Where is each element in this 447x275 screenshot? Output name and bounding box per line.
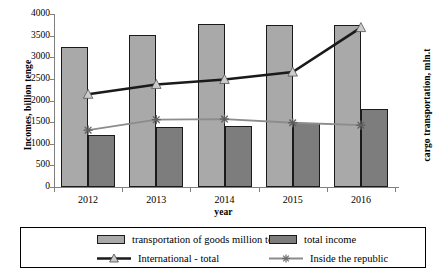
x-axis-tick-mark <box>395 187 396 192</box>
x-axis-line <box>54 187 399 188</box>
line-series-group <box>54 14 395 187</box>
marker-star-icon <box>84 126 93 135</box>
x-axis-title: year <box>0 207 447 217</box>
legend-swatch-light-icon <box>97 235 125 244</box>
legend-item-transportation-of-goods[interactable]: transportation of goods million tons <box>97 230 283 248</box>
legend-swatch-dark-icon <box>269 235 297 244</box>
x-axis-tick-mark <box>327 187 328 192</box>
x-axis-tick-mark <box>259 187 260 192</box>
legend-label-inside-the-republic: Inside the republic <box>310 253 388 264</box>
legend-line-triangle-icon <box>97 253 131 264</box>
marker-star-icon <box>152 115 161 124</box>
legend-item-inside-the-republic[interactable]: Inside the republic <box>269 249 388 267</box>
x-axis-tick-mark <box>54 187 55 192</box>
y-axis-tick-marks <box>0 14 60 188</box>
y-axis-right-title: cargo transportation, mln.t <box>422 25 432 185</box>
legend-label-transportation-of-goods: transportation of goods million tons <box>132 234 283 245</box>
legend-label-international-total: International - total <box>138 253 219 264</box>
x-axis-tick-label: 2014 <box>195 194 255 205</box>
x-axis-tick-label: 2013 <box>126 194 186 205</box>
legend-row-2: International - total Inside the republi… <box>21 249 427 267</box>
marker-triangle-icon <box>356 23 366 32</box>
x-axis-tick-label: 2016 <box>331 194 391 205</box>
marker-star-icon <box>356 121 365 130</box>
marker-star-icon <box>288 118 297 127</box>
legend-item-international-total[interactable]: International - total <box>97 249 219 267</box>
legend-item-total-income[interactable]: total income <box>269 230 356 248</box>
x-axis-tick-mark <box>122 187 123 192</box>
line-path <box>88 28 361 95</box>
chart-legend: transportation of goods million tons tot… <box>20 227 426 268</box>
x-axis-tick-label: 2012 <box>58 194 118 205</box>
x-axis-tick-label: 2015 <box>263 194 323 205</box>
marker-star-icon <box>220 114 229 123</box>
legend-line-star-icon <box>269 253 303 264</box>
legend-label-total-income: total income <box>304 234 356 245</box>
legend-row-1: transportation of goods million tons tot… <box>21 230 427 248</box>
x-axis-tick-mark <box>190 187 191 192</box>
chart-container: Incomes, billion tenge cargo transportat… <box>0 0 447 275</box>
